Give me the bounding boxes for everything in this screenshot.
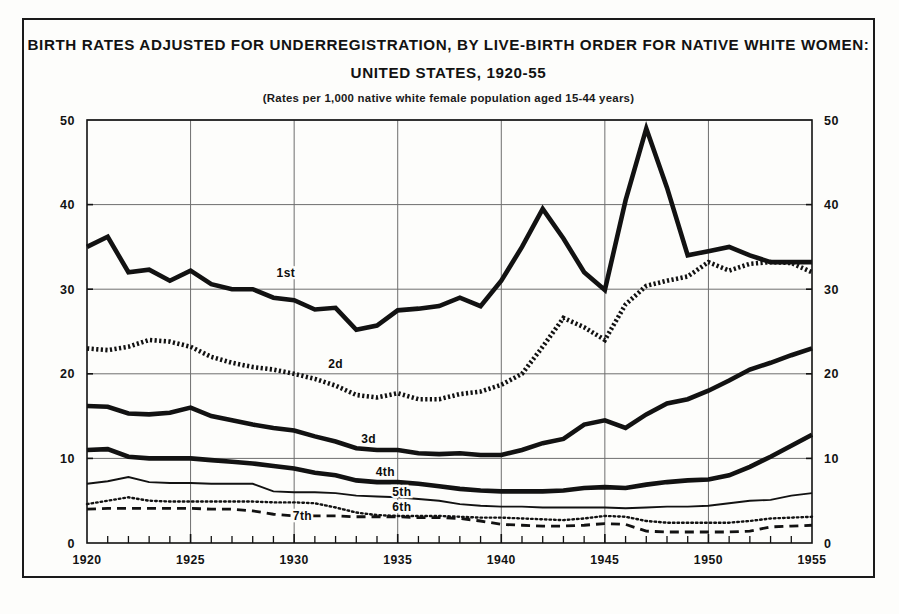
chart-subtitle: (Rates per 1,000 native white female pop…: [24, 92, 873, 104]
chart-figure: BIRTH RATES ADJUSTED FOR UNDERREGISTRATI…: [0, 0, 899, 614]
chart-title-line-2: UNITED STATES, 1920-55: [24, 65, 873, 80]
title-block: BIRTH RATES ADJUSTED FOR UNDERREGISTRATI…: [24, 20, 873, 104]
chart-title-line-1: BIRTH RATES ADJUSTED FOR UNDERREGISTRATI…: [24, 37, 873, 52]
